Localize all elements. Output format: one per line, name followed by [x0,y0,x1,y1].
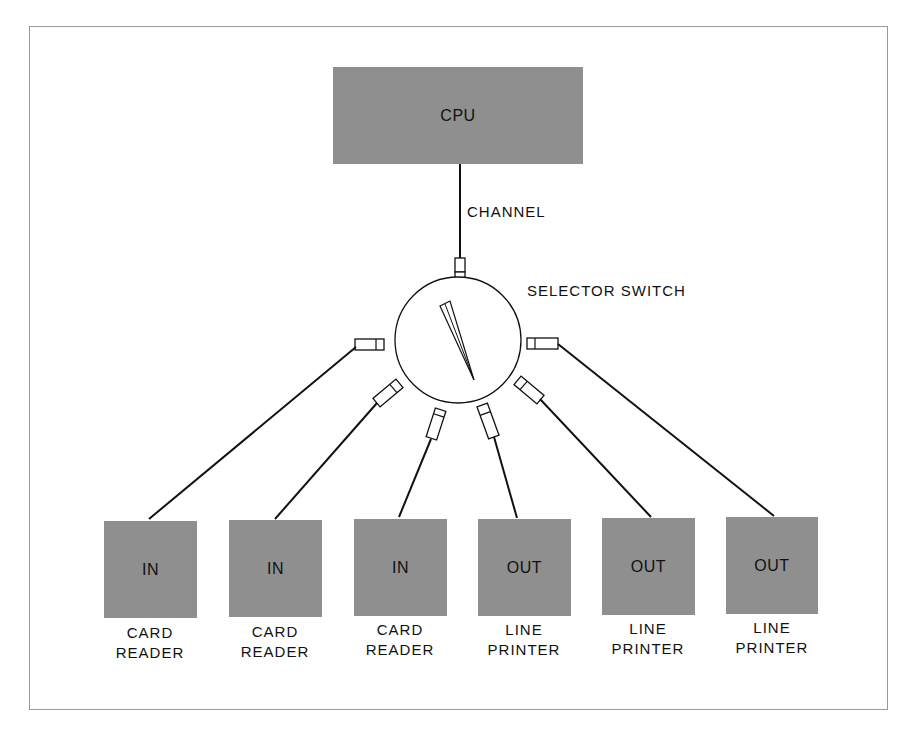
link-line-4 [494,437,517,518]
connector-2-icon [373,379,403,407]
device-box-card-reader-3: IN [354,519,447,616]
cpu-box: CPU [333,67,583,164]
device-box-line-printer-2: OUT [602,518,695,615]
device-type-label: IN [392,559,409,577]
device-type-label: OUT [631,558,666,576]
selector-switch-label: SELECTOR SWITCH [527,281,686,301]
cpu-label: CPU [440,107,475,125]
device-box-line-printer-1: OUT [478,519,571,616]
device-caption: CARD READER [215,622,335,662]
device-box-line-printer-3: OUT [726,517,818,614]
channel-label: CHANNEL [467,202,546,222]
connector-3-icon [426,408,446,440]
link-line-6 [558,344,774,516]
link-line-2 [275,403,377,519]
device-caption: CARD READER [340,620,460,660]
connector-4-icon [477,403,499,439]
device-type-label: OUT [754,557,789,575]
connector-1-icon [355,339,384,350]
device-type-label: OUT [507,559,542,577]
link-line-3 [399,439,431,517]
connector-6-icon [527,338,558,349]
device-caption: LINE PRINTER [588,619,708,659]
device-type-label: IN [267,560,284,578]
device-caption: LINE PRINTER [464,620,584,660]
device-box-card-reader-2: IN [229,520,322,617]
top-connector-icon [455,258,465,272]
device-type-label: IN [142,561,159,579]
device-box-card-reader-1: IN [104,521,197,618]
link-line-1 [149,347,356,519]
device-caption: CARD READER [90,623,210,663]
device-caption: LINE PRINTER [712,618,832,658]
link-line-5 [540,399,651,517]
